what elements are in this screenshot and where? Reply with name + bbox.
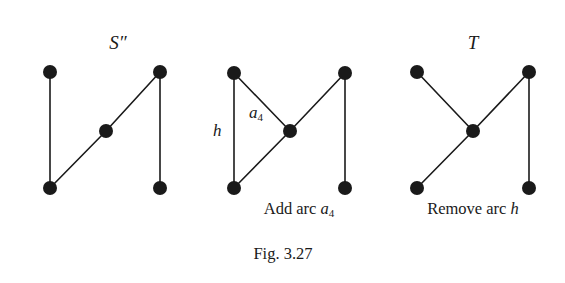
graph-node <box>410 181 424 195</box>
graph-title-s-double-prime: S″ <box>109 33 126 52</box>
figure-caption: Fig. 3.27 <box>253 246 312 263</box>
caption-add-arc-a4: Add arc a4 <box>264 201 335 219</box>
graph-node <box>227 66 241 80</box>
graph-node <box>410 65 424 79</box>
edge-label-a4-symbol: a <box>249 103 258 122</box>
edge-label-h-text: h <box>213 121 222 140</box>
graph-edge <box>106 72 160 131</box>
caption-add-arc-symbol: a <box>321 199 329 218</box>
graph-node <box>227 181 241 195</box>
graph-edge <box>290 73 345 131</box>
graph-edge <box>417 131 473 188</box>
edge-label-a4-subscript: 4 <box>258 111 264 123</box>
graph-node <box>338 181 352 195</box>
graph-node <box>43 181 57 195</box>
graph-node <box>43 65 57 79</box>
caption-add-arc-prefix: Add arc <box>264 199 321 218</box>
edge-label-h: h <box>213 122 222 139</box>
figure-3-27: S″ T h a4 Add arc a4 Remove arc h Fig. 3… <box>0 0 565 283</box>
graph-drawing-canvas <box>0 0 565 283</box>
graph-node <box>283 124 297 138</box>
graph-node <box>338 66 352 80</box>
graph-node <box>466 124 480 138</box>
graph-edge <box>473 72 529 131</box>
graph-node <box>153 65 167 79</box>
caption-remove-arc-symbol: h <box>511 199 519 218</box>
edge-label-a4: a4 <box>249 104 263 123</box>
nodes-layer <box>43 65 536 195</box>
caption-remove-arc-h: Remove arc h <box>427 201 519 218</box>
graph-node <box>153 181 167 195</box>
graph-node <box>522 65 536 79</box>
graph-edge <box>234 131 290 188</box>
graph-edge <box>50 131 106 188</box>
graph-node <box>99 124 113 138</box>
caption-add-arc-subscript: 4 <box>329 207 335 219</box>
caption-remove-arc-prefix: Remove arc <box>427 199 510 218</box>
graph-node <box>522 181 536 195</box>
graph-title-t: T <box>468 33 479 52</box>
graph-edge <box>417 72 473 131</box>
